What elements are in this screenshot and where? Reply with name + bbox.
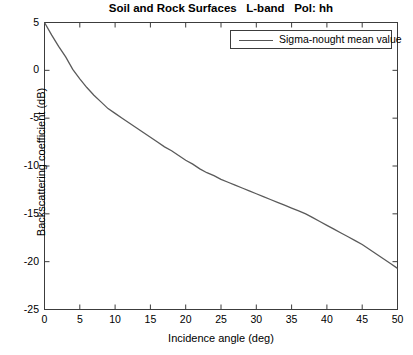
axis-ticks — [45, 23, 398, 310]
chart-legend: Sigma-nought mean value — [230, 30, 392, 49]
x-tick-label: 35 — [277, 313, 307, 325]
chart-figure: Soil and Rock Surfaces L-band Pol: hh 05… — [0, 0, 413, 355]
x-tick-label: 0 — [30, 313, 60, 325]
x-tick-label: 25 — [206, 313, 236, 325]
y-axis-label: Backscattering coefficient (dB) — [35, 42, 47, 282]
x-tick-label: 20 — [171, 313, 201, 325]
plot-frame — [45, 23, 398, 310]
x-tick-label: 45 — [347, 313, 377, 325]
x-tick-label: 10 — [100, 313, 130, 325]
y-tick-label: -25 — [9, 303, 39, 315]
data-series-line — [45, 23, 398, 269]
x-axis-label: Incidence angle (deg) — [44, 332, 398, 344]
y-tick-label: 5 — [9, 16, 39, 28]
x-tick-label: 15 — [135, 313, 165, 325]
x-tick-label: 50 — [383, 313, 413, 325]
plot-area — [0, 0, 413, 355]
legend-entry-label: Sigma-nought mean value — [279, 33, 402, 45]
x-tick-label: 30 — [241, 313, 271, 325]
legend-line-swatch — [239, 40, 273, 41]
x-tick-label: 40 — [312, 313, 342, 325]
x-tick-label: 5 — [65, 313, 95, 325]
